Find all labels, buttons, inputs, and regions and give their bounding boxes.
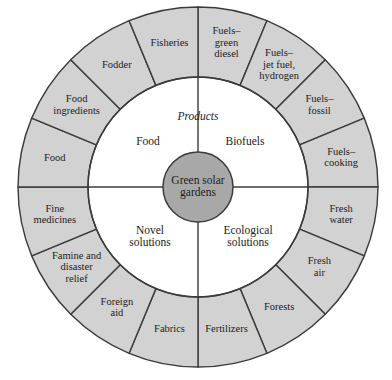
outer-sector-label-fresh-water: Freshwater: [330, 203, 354, 226]
outer-sector-label-fertilizers: Fertilizers: [205, 324, 248, 335]
inner-quadrant-label-novel-solutions: Novelsolutions: [129, 223, 171, 248]
outer-sector-label-food: Food: [44, 152, 66, 163]
products-label-group: Products: [176, 110, 219, 122]
inner-quadrant-label-ecological-solutions: Ecologicalsolutions: [223, 223, 272, 248]
diagram-canvas: Fuels–greendieselFuels–jet fuel,hydrogen…: [0, 0, 392, 380]
concentric-ring-diagram: Fuels–greendieselFuels–jet fuel,hydrogen…: [0, 0, 392, 380]
outer-sector-label-fodder: Fodder: [102, 59, 132, 70]
outer-sector-label-forests: Forests: [264, 302, 294, 313]
inner-quadrant-label-biofuels: Biofuels: [226, 135, 265, 147]
outer-sector-label-fuels-fossil: Fuels–fossil: [305, 94, 334, 117]
outer-sector-label-fuels-cooking: Fuels–cooking: [324, 146, 359, 169]
inner-quadrant-label-food: Food: [136, 135, 160, 147]
outer-sector-label-fabrics: Fabrics: [154, 324, 185, 335]
products-label: Products: [176, 110, 219, 122]
outer-sector-label-fuels-green-diesel: Fuels–greendiesel: [212, 26, 241, 60]
outer-sector-label-fisheries: Fisheries: [151, 37, 189, 48]
